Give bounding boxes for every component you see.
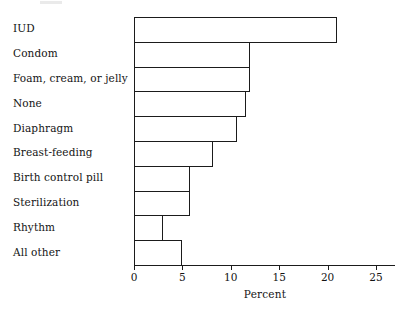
category-label: IUD: [13, 23, 133, 34]
bar-chart: IUDCondomFoam, cream, or jellyNoneDiaphr…: [0, 0, 401, 309]
bar: [134, 240, 182, 266]
x-axis-tick-label: 20: [313, 271, 343, 283]
category-label: Condom: [13, 48, 133, 59]
bar: [134, 91, 246, 117]
x-axis-tick: [376, 265, 377, 270]
x-axis-tick: [231, 265, 232, 270]
bar: [134, 67, 250, 93]
bar: [134, 17, 337, 43]
category-label: Breast-feeding: [13, 147, 133, 158]
x-axis-tick-label: 0: [119, 271, 149, 283]
category-label: All other: [13, 247, 133, 258]
x-axis-tick: [279, 265, 280, 270]
x-axis-line: [134, 265, 395, 266]
bar: [134, 116, 237, 142]
bar: [134, 215, 163, 241]
x-axis-tick: [134, 265, 135, 270]
category-label: Diaphragm: [13, 123, 133, 134]
bar: [134, 191, 190, 217]
x-axis-tick-label: 10: [216, 271, 246, 283]
category-label: Birth control pill: [13, 172, 133, 183]
category-label: Sterilization: [13, 197, 133, 208]
x-axis-tick: [182, 265, 183, 270]
category-label: Rhythm: [13, 222, 133, 233]
bar: [134, 42, 250, 68]
x-axis-tick-label: 15: [264, 271, 294, 283]
category-axis-labels: IUDCondomFoam, cream, or jellyNoneDiaphr…: [0, 0, 128, 309]
bar: [134, 141, 213, 167]
x-axis-tick: [328, 265, 329, 270]
category-label: Foam, cream, or jelly: [13, 73, 133, 84]
x-axis-tick-label: 5: [167, 271, 197, 283]
plot-area: [134, 17, 392, 265]
x-axis-tick-label: 25: [361, 271, 391, 283]
bar: [134, 166, 190, 192]
x-axis-title: Percent: [134, 288, 396, 300]
category-label: None: [13, 98, 133, 109]
